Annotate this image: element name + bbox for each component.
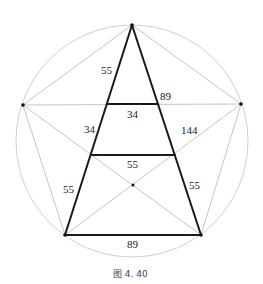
label-bottom-left-side: 55	[63, 183, 75, 195]
label-mid-right-side: 144	[181, 124, 198, 136]
label-lower-bar: 55	[127, 158, 139, 170]
golden-pentagon-diagram: 55 89 34 34 144 55 55 55 89 图 4. 40	[0, 0, 263, 284]
label-bottom-right-side: 55	[189, 179, 201, 191]
circumcircle	[16, 25, 248, 257]
label-top-right-side: 89	[160, 90, 172, 102]
label-mid-left-side: 34	[84, 123, 96, 135]
label-top-left-side: 55	[101, 64, 113, 76]
label-upper-bar: 34	[127, 108, 139, 120]
thin-lines	[23, 25, 241, 235]
figure-caption: 图 4. 40	[113, 269, 148, 279]
label-base: 89	[127, 238, 139, 250]
